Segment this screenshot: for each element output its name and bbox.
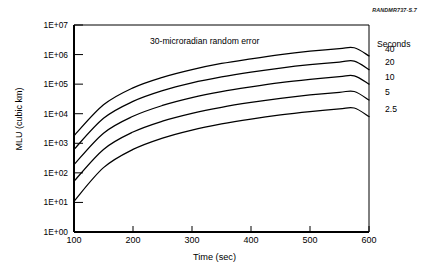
y-tick-label: 1E+06 — [22, 50, 68, 60]
y-tick-label: 1E+01 — [22, 197, 68, 207]
data-curves-group — [74, 47, 369, 201]
legend-label-40: 40 — [385, 44, 395, 54]
legend-label-5: 5 — [385, 87, 390, 97]
x-tick-label: 200 — [113, 235, 153, 245]
y-tick-label: 1E+07 — [22, 20, 68, 30]
axes-group — [74, 25, 369, 232]
data-curve-5 — [74, 91, 369, 181]
x-tick-label: 100 — [54, 235, 94, 245]
y-tick-label: 1E+02 — [22, 168, 68, 178]
legend-label-2.5: 2.5 — [385, 104, 397, 114]
chart-title: 30-microradian random error — [150, 36, 259, 46]
chart-figure: RANDMR737-S.7 30-microradian random erro… — [0, 0, 429, 276]
data-curve-2.5 — [74, 108, 369, 202]
x-axis-title: Time (sec) — [0, 252, 429, 262]
y-tick-label: 1E+03 — [22, 138, 68, 148]
x-tick-label: 600 — [349, 235, 389, 245]
source-tag: RANDMR737-S.7 — [372, 7, 417, 13]
legend-label-20: 20 — [385, 57, 395, 67]
x-tick-label: 500 — [290, 235, 330, 245]
x-tick-label: 400 — [231, 235, 271, 245]
y-tick-label: 1E+04 — [22, 109, 68, 119]
x-tick-label: 300 — [172, 235, 212, 245]
legend-label-10: 10 — [385, 72, 395, 82]
data-curve-20 — [74, 61, 369, 150]
data-curve-10 — [74, 75, 369, 164]
y-tick-label: 1E+05 — [22, 79, 68, 89]
